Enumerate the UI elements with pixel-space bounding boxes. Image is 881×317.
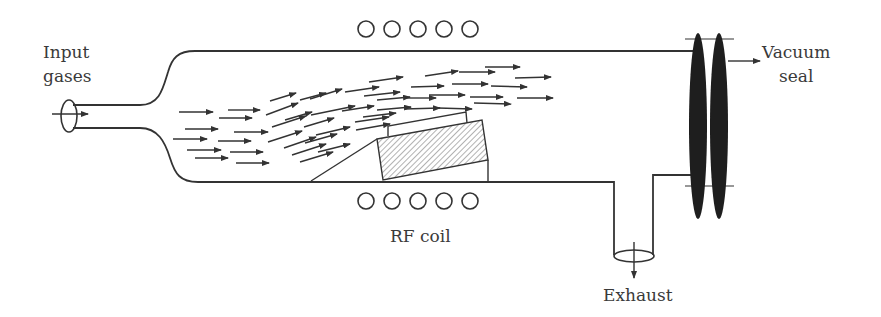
rf-coil-label: RF coil (390, 224, 451, 248)
rf-coil-bottom (358, 193, 478, 209)
vacuum-seal (685, 33, 760, 219)
pecvd-reactor-diagram (0, 0, 881, 317)
rf-coil-top (358, 21, 478, 37)
vacuum-seal-label: Vacuum seal (762, 40, 830, 88)
input-gases-label-line1: Input (43, 40, 92, 64)
input-port (61, 100, 77, 132)
input-gases-label-line2: gases (43, 64, 92, 88)
vacuum-seal-label-line1: Vacuum (762, 40, 830, 64)
vacuum-seal-label-line2: seal (762, 64, 830, 88)
exhaust-label: Exhaust (603, 283, 673, 307)
input-gases-label: Input gases (43, 40, 92, 88)
